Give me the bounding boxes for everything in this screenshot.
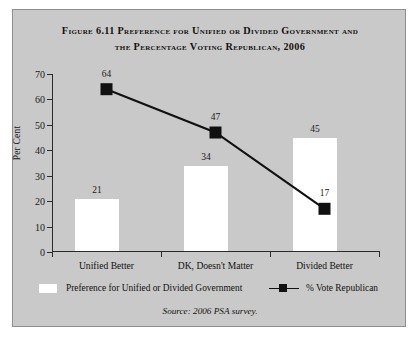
line-value-label-1: 64 — [102, 69, 112, 79]
x-category-label-unified-better: Unified Better — [79, 260, 134, 271]
bar-divided-better — [293, 138, 337, 252]
x-category-label-divided-better: Divided Better — [296, 260, 353, 271]
y-tick-label-10: 10 — [25, 221, 45, 232]
bar-value-label-3: 45 — [310, 124, 320, 134]
line-value-label-2: 47 — [211, 112, 221, 122]
y-tick-label-0: 0 — [25, 247, 45, 258]
figure-panel: Figure 6.11 Preference for Unified or Di… — [12, 9, 406, 327]
bar-unified-better — [75, 199, 119, 252]
y-tick-label-40: 40 — [25, 145, 45, 156]
x-tick-mark-3 — [379, 252, 380, 257]
legend-swatch-bar-icon — [39, 284, 57, 293]
legend-entry-line-series: % Vote Republican — [269, 283, 378, 293]
y-tick-label-30: 30 — [25, 170, 45, 181]
y-tick-mark-20 — [47, 201, 52, 202]
x-tick-mark-2 — [270, 252, 271, 257]
x-category-label-dk-doesnt-matter: DK, Doesn't Matter — [178, 260, 254, 271]
y-tick-mark-70 — [47, 74, 52, 75]
y-tick-label-70: 70 — [25, 69, 45, 80]
x-axis-line — [52, 251, 380, 252]
y-axis-line — [52, 74, 53, 252]
x-tick-mark-0 — [52, 252, 53, 257]
figure-title-line-1: Figure 6.11 Preference for Unified or Di… — [31, 23, 389, 39]
y-tick-label-20: 20 — [25, 196, 45, 207]
y-axis-title: Per Cent — [12, 126, 22, 161]
legend-entry-bar-series: Preference for Unified or Divided Govern… — [39, 283, 242, 293]
bar-value-label-1: 21 — [92, 185, 102, 195]
bar-dk-doesnt-matter — [184, 166, 228, 252]
y-tick-mark-10 — [47, 227, 52, 228]
y-tick-label-50: 50 — [25, 119, 45, 130]
y-tick-mark-40 — [47, 150, 52, 151]
legend-square-marker-icon — [279, 284, 287, 292]
y-tick-mark-30 — [47, 176, 52, 177]
source-note: Source: 2006 PSA survey. — [13, 306, 407, 316]
x-tick-mark-1 — [161, 252, 162, 257]
y-tick-label-60: 60 — [25, 94, 45, 105]
legend-label-line-series: % Vote Republican — [306, 283, 378, 293]
figure-title-line-2: the Percentage Voting Republican, 2006 — [31, 39, 389, 55]
legend-swatch-line-marker-icon — [269, 283, 299, 293]
chart-legend: Preference for Unified or Divided Govern… — [13, 283, 407, 299]
figure-title: Figure 6.11 Preference for Unified or Di… — [31, 23, 389, 55]
y-tick-mark-60 — [47, 99, 52, 100]
y-tick-mark-50 — [47, 125, 52, 126]
figure-root: Figure 6.11 Preference for Unified or Di… — [0, 0, 419, 345]
line-value-label-3: 17 — [320, 188, 330, 198]
legend-label-bar-series: Preference for Unified or Divided Govern… — [66, 283, 242, 293]
bar-value-label-2: 34 — [201, 152, 211, 162]
